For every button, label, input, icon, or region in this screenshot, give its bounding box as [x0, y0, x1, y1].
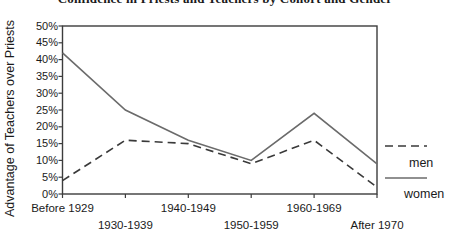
y-tick-label: 15% [20, 137, 58, 150]
legend-men-line-sample [384, 142, 428, 150]
y-tick-label: 50% [20, 20, 58, 33]
y-tick-label: 35% [20, 70, 58, 83]
y-tick-label: 45% [20, 36, 58, 49]
y-tick-label: 40% [20, 53, 58, 66]
series-line-men [63, 140, 378, 187]
y-tick-label: 25% [20, 104, 58, 117]
y-tick-label: 5% [20, 171, 58, 184]
y-tick-label: 10% [20, 154, 58, 167]
series-line-women [63, 53, 378, 164]
plot-frame [63, 26, 378, 194]
y-tick-label: 20% [20, 120, 58, 133]
legend-women-label: women [404, 187, 444, 201]
x-category-label: 1940-1949 [161, 202, 216, 215]
y-tick-label: 30% [20, 87, 58, 100]
y-tick-label: 0% [20, 188, 58, 201]
x-category-label: 1960-1969 [287, 202, 342, 215]
chart: Confidence in Priests and Teachers by Co… [0, 0, 450, 242]
x-category-label: 1930-1939 [98, 219, 153, 232]
legend-men-label: men [409, 156, 433, 170]
x-category-label: 1950-1959 [224, 219, 279, 232]
legend-women-line-sample [384, 174, 428, 182]
x-category-label: Before 1929 [31, 202, 94, 215]
x-category-label: After 1970 [350, 219, 403, 232]
